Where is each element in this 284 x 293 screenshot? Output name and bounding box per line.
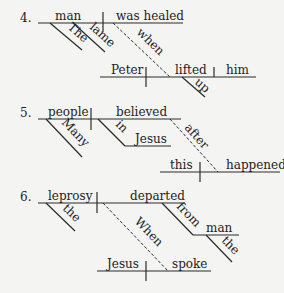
object-word: him	[226, 63, 250, 77]
prep-object-word: Jesus	[133, 132, 167, 146]
diagram-number: 5.	[20, 106, 31, 120]
subordinate-subject-word: Jesus	[105, 257, 139, 271]
modifier-word: lame	[87, 20, 118, 50]
verb-word: departed	[130, 189, 185, 203]
diagram-4: 4. man was healed The lame when Peter li…	[20, 9, 256, 97]
sentence-diagrams: 4. man was healed The lame when Peter li…	[0, 0, 284, 293]
subject-word: man	[55, 9, 82, 23]
modifier-word: Many	[59, 115, 93, 149]
subordinate-verb-word: spoke	[172, 257, 207, 271]
diagram-number: 6.	[20, 190, 31, 204]
preposition-word: from	[174, 199, 204, 230]
connector-word: when	[134, 25, 168, 58]
subordinate-subject-word: Peter	[111, 63, 144, 77]
verb-word: was healed	[116, 9, 184, 23]
diagram-number: 4.	[20, 11, 31, 25]
preposition-word: in	[113, 117, 131, 135]
diagram-5: 5. people believed Many in Jesus after t…	[20, 105, 284, 182]
modifier-word: the	[219, 233, 243, 257]
modifier-word: the	[60, 201, 84, 225]
modifier-word: up	[192, 75, 213, 96]
subordinate-verb-word: happened	[226, 158, 284, 172]
connector-word: When	[132, 214, 166, 249]
subordinate-subject-word: this	[170, 158, 193, 172]
diagram-6: 6. leprosy departed the When from man th…	[20, 189, 243, 281]
connector-word: after	[182, 121, 212, 152]
